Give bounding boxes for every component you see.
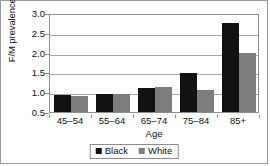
bar-group: [218, 15, 260, 112]
legend-entry-white[interactable]: White: [139, 146, 172, 156]
y-tick-label: 2.5: [21, 29, 45, 39]
legend-swatch-icon: [139, 148, 145, 154]
legend-label: White: [148, 146, 172, 156]
bar-white: [239, 53, 256, 112]
bar-black: [222, 23, 239, 112]
x-tick-mark: [217, 115, 218, 118]
bar-group: [176, 15, 218, 112]
y-tick-label: 0.5: [21, 108, 45, 118]
x-tick-label: 55–64: [91, 115, 133, 126]
x-tick-label: 45–54: [49, 115, 91, 126]
y-tick-label: 3.0: [21, 9, 45, 19]
bar-black: [54, 95, 71, 112]
legend-entry-black[interactable]: Black: [96, 146, 128, 156]
chart-figure: F/M prevalence ratio 3.02.52.01.51.00.5 …: [0, 0, 268, 164]
bar-black: [96, 94, 113, 112]
y-tick-label: 1.0: [21, 88, 45, 98]
y-axis-ticks: 3.02.52.01.51.00.5: [1, 1, 49, 166]
bar-black: [180, 73, 197, 112]
legend-swatch-icon: [96, 148, 102, 154]
legend-label: Black: [105, 146, 128, 156]
bar-white: [113, 94, 130, 112]
bar-white: [71, 96, 88, 112]
bar-group: [50, 15, 92, 112]
x-tick-mark: [91, 115, 92, 118]
x-axis-title: Age: [49, 128, 259, 139]
x-tick-mark: [49, 115, 50, 118]
x-tick-label: 85+: [217, 115, 259, 126]
plot-area: [49, 14, 259, 113]
x-tick-mark: [259, 115, 260, 118]
x-tick-mark: [133, 115, 134, 118]
x-tick-mark: [175, 115, 176, 118]
y-tick-label: 1.5: [21, 68, 45, 78]
x-axis-ticks: 45–5455–6465–7475–8485+: [49, 115, 259, 128]
x-tick-label: 75–84: [175, 115, 217, 126]
bar-black: [138, 88, 155, 112]
bar-group: [92, 15, 134, 112]
bar-group: [134, 15, 176, 112]
bar-white: [155, 87, 172, 112]
y-tick-label: 2.0: [21, 49, 45, 59]
y-tick-mark: [45, 113, 49, 114]
chart-legend: BlackWhite: [90, 144, 179, 159]
bar-white: [197, 90, 214, 112]
x-tick-label: 65–74: [133, 115, 175, 126]
